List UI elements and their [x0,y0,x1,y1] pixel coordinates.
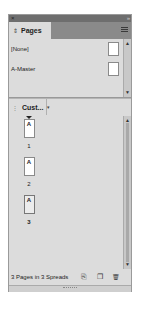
page-thumbnail[interactable]: A [24,119,35,138]
grip-icon: ⋮ [12,104,18,111]
panel-tab-row: ⇕ Pages [9,22,131,39]
master-label: [None] [11,46,29,52]
new-page-icon[interactable]: ❐ [97,273,103,281]
master-thumbnail[interactable] [108,62,119,76]
tab-pages[interactable]: ⇕ Pages [9,22,51,39]
pages-scrollbar[interactable]: ▲ ▼ [123,116,131,269]
resize-grip[interactable] [9,285,131,292]
page-thumbnail[interactable]: A [24,195,35,214]
page-item[interactable]: A 2 [21,157,37,187]
page-number: 3 [21,219,37,225]
scroll-up-icon[interactable]: ▲ [125,41,130,46]
master-item-a-master[interactable]: A-Master [11,62,123,80]
masters-scrollbar[interactable]: ▲ ▼ [123,39,131,97]
tab-arrows-icon: ⇕ [13,27,18,34]
grip-dots-icon [63,287,77,290]
page-item-selected[interactable]: A 3 [21,195,37,225]
pages-panel: × » ⇕ Pages [None] A-Master ▲ ▼ ⋮ Cust..… [8,14,132,292]
pages-list: A 1 A 2 A 3 [9,115,131,269]
panel-menu-icon[interactable] [121,27,128,33]
page-number: 2 [21,181,37,187]
masters-section: [None] A-Master [9,39,123,97]
page-count-status: 3 Pages in 3 Spreads [11,274,68,280]
collapse-icon[interactable]: » [127,15,129,22]
scroll-track[interactable] [126,123,129,262]
delete-page-icon[interactable]: 🗑 [112,273,120,281]
page-thumbnail[interactable]: A [24,157,35,176]
master-item-none[interactable]: [None] [11,42,123,60]
tab-pages-label: Pages [21,27,42,34]
view-label: Cust... [22,104,43,111]
chevron-down-icon: ▾ [47,104,50,110]
panel-title-bar[interactable]: × » [9,15,131,22]
scroll-down-icon[interactable]: ▼ [125,262,130,267]
page-number: 1 [21,143,37,149]
view-dropdown[interactable]: ⋮ Cust... ▾ [9,99,47,115]
edit-page-size-icon[interactable]: ⎘ [81,273,87,281]
master-label: A-Master [11,66,35,72]
master-thumbnail[interactable] [108,42,119,56]
pages-view-tab-row: ⋮ Cust... ▾ [9,99,131,116]
close-icon[interactable]: × [11,15,15,22]
page-item[interactable]: A 1 [21,119,37,149]
scroll-down-icon[interactable]: ▼ [125,90,130,95]
panel-footer: 3 Pages in 3 Spreads ⎘ ❐ 🗑 [9,269,131,285]
